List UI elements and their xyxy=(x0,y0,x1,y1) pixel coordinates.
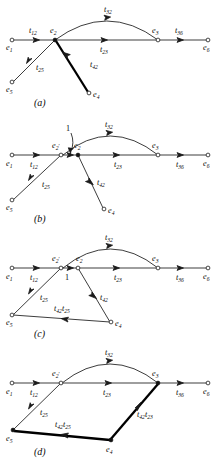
edge-label-b-t36: t36 xyxy=(176,160,184,170)
node-label-d-e1: e1 xyxy=(6,387,13,397)
node-a-e2 xyxy=(53,38,57,42)
node-a-e3 xyxy=(156,38,160,42)
node-label-d-e6: e6 xyxy=(203,387,210,397)
pointer-arrow-b-one xyxy=(68,148,73,154)
edge-label-a-t12: t12 xyxy=(29,26,37,36)
arrow-b-t36 xyxy=(177,153,184,158)
arrow-b-t42 xyxy=(86,178,94,185)
node-a-e5 xyxy=(10,80,14,84)
arrow-d-t32 xyxy=(106,358,113,363)
node-d-e4 xyxy=(109,438,113,442)
arrow-b-t32 xyxy=(106,130,113,135)
panel-d: e1 e2′ e3 e4 e5 e6 t12 t23 t36 t32 t25 t… xyxy=(6,348,210,458)
edge-label-b-t42: t42 xyxy=(97,178,105,188)
arrow-b-t12 xyxy=(33,153,40,158)
node-label-b-e2prime: e2′ xyxy=(52,141,60,151)
edge-label-a-t25: t25 xyxy=(36,63,44,73)
node-c-e3 xyxy=(156,266,160,270)
arrow-b-t23 xyxy=(113,153,120,158)
node-label-a-e6: e6 xyxy=(203,43,210,53)
edge-label-c-one: 1 xyxy=(65,273,69,282)
panel-a: e1 e2 e3 e4 e5 e6 t12 t23 t36 t32 t25 t4… xyxy=(6,5,210,109)
node-d-e6 xyxy=(206,381,210,385)
arrow-a-t36 xyxy=(177,38,184,43)
node-label-b-e1: e1 xyxy=(6,159,13,169)
node-label-c-e3: e3 xyxy=(152,254,159,264)
node-label-a-e2: e2 xyxy=(50,26,57,36)
arrow-d-t25 xyxy=(29,403,35,409)
edge-a-e4-e2 xyxy=(56,41,88,92)
node-a-e1 xyxy=(10,38,14,42)
edge-label-d-t42t25: t42t25 xyxy=(55,420,71,430)
node-b-e3 xyxy=(156,153,160,157)
node-d-e2prime xyxy=(59,381,63,385)
edge-label-d-t42t23: t42t23 xyxy=(137,410,153,420)
node-a-e6 xyxy=(206,38,210,42)
edge-label-d-t36: t36 xyxy=(176,388,184,398)
node-b-e2prime xyxy=(59,153,63,157)
edge-d-e2prime-e5 xyxy=(13,383,61,430)
edge-b-e2prime-e5 xyxy=(13,155,61,200)
panel-caption-b: (b) xyxy=(34,213,46,225)
edge-a-e2-e5 xyxy=(13,40,55,82)
figure-container: e1 e2 e3 e4 e5 e6 t12 t23 t36 t32 t25 t4… xyxy=(0,0,224,463)
panel-caption-d: (d) xyxy=(34,446,46,458)
node-label-d-e2prime: e2′ xyxy=(52,369,60,379)
node-c-e1 xyxy=(10,266,14,270)
node-label-a-e3: e3 xyxy=(152,26,159,36)
edge-label-c-t42t25: t42t25 xyxy=(54,304,70,314)
edge-d-arc-t32 xyxy=(62,364,158,383)
arrow-c-t36 xyxy=(177,266,184,271)
edge-label-a-t32: t32 xyxy=(104,5,112,15)
edge-label-a-t23: t23 xyxy=(100,45,108,55)
node-label-d-e4: e4 xyxy=(106,445,113,455)
node-d-e3 xyxy=(156,381,160,385)
arrow-a-t23 xyxy=(101,38,108,43)
node-label-c-e1: e1 xyxy=(6,272,13,282)
edge-label-b-one: 1 xyxy=(66,124,70,133)
node-d-e5 xyxy=(11,428,15,432)
edge-label-c-t36: t36 xyxy=(176,273,184,283)
edge-label-c-t23: t23 xyxy=(114,273,122,283)
node-label-b-e6: e6 xyxy=(203,159,210,169)
node-label-c-e2prime: e2′ xyxy=(52,254,60,264)
edge-label-c-t42: t42 xyxy=(100,293,108,303)
arrow-c-t42 xyxy=(89,292,97,299)
arrow-d-t12 xyxy=(33,381,40,386)
panel-caption-c: (c) xyxy=(34,328,46,340)
node-b-e5 xyxy=(10,198,14,202)
node-label-a-e5: e5 xyxy=(6,85,13,95)
edge-label-c-t25: t25 xyxy=(40,293,48,303)
arrow-c-one xyxy=(67,266,74,271)
arrow-a-t12 xyxy=(33,38,40,43)
edge-label-d-t23: t23 xyxy=(103,388,111,398)
edge-a-arc-t32 xyxy=(55,21,158,40)
edge-label-d-t32: t32 xyxy=(105,348,113,358)
panel-c: e1 e2′ e2 e3 e4 e5 e6 t12 1 t23 t36 t32 … xyxy=(6,233,210,340)
node-b-e1 xyxy=(10,153,14,157)
edge-label-a-t42: t42 xyxy=(90,60,98,70)
node-label-a-e4: e4 xyxy=(93,90,100,100)
arrow-b-t25 xyxy=(29,174,35,180)
arrow-c-t23 xyxy=(113,266,120,271)
panel-caption-a: (a) xyxy=(34,97,46,109)
edge-label-b-t12: t12 xyxy=(30,160,38,170)
edge-label-a-t36: t36 xyxy=(175,26,183,36)
node-a-e4 xyxy=(87,91,91,95)
node-b-e4 xyxy=(102,207,106,211)
node-label-c-e4: e4 xyxy=(115,319,122,329)
edge-label-d-t25: t25 xyxy=(40,408,48,418)
edge-label-d-t12: t12 xyxy=(30,388,38,398)
arrow-a-t42 xyxy=(62,52,70,59)
figure-svg: e1 e2 e3 e4 e5 e6 t12 t23 t36 t32 t25 t4… xyxy=(0,0,224,463)
node-label-a-e1: e1 xyxy=(6,43,13,53)
arrow-c-t42t25 xyxy=(61,317,68,322)
node-label-c-e6: e6 xyxy=(203,272,210,282)
node-label-b-e5: e5 xyxy=(6,203,13,213)
node-c-e5 xyxy=(10,313,14,317)
node-label-b-e2: e2 xyxy=(74,141,81,151)
node-b-e2 xyxy=(76,153,80,157)
node-d-e1 xyxy=(10,381,14,385)
arrow-c-t32 xyxy=(106,243,113,248)
edge-d-e4-e3 xyxy=(110,384,158,440)
